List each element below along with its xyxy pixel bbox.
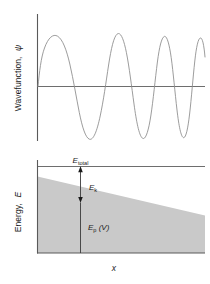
kinetic-energy-arrow: [78, 166, 83, 203]
svg-text:Energy, E: Energy, E: [13, 191, 23, 232]
total-energy-label-sub: total: [78, 160, 89, 166]
potential-energy-label-sub: p: [93, 227, 96, 233]
svg-text:Wavefunction, ψ: Wavefunction, ψ: [13, 45, 23, 112]
energy-panel: Etotal Ek Ep(V) Energy, E x: [13, 156, 205, 273]
potential-energy-label-paren: (V): [99, 223, 110, 232]
energy-y-axis-label: Energy, E: [13, 191, 23, 232]
kinetic-energy-label: Ek: [89, 183, 97, 193]
energy-label-text: Energy,: [13, 203, 23, 232]
potential-energy-label: Ep(V): [88, 223, 110, 233]
wavefunction-panel: Wavefunction, ψ: [13, 14, 205, 141]
wavefunction-y-axis-label: Wavefunction, ψ: [13, 45, 23, 112]
energy-x-axis-label: x: [111, 263, 117, 273]
kinetic-energy-label-sub: k: [94, 187, 97, 193]
total-energy-label: Etotal: [73, 156, 89, 166]
potential-energy-area: [38, 177, 206, 254]
energy-label-symbol: E: [13, 191, 23, 197]
wavefunction-label-text: Wavefunction,: [13, 56, 23, 111]
wavefunction-label-symbol: ψ: [13, 45, 23, 51]
physics-figure: Wavefunction, ψ Etotal Ek: [0, 0, 210, 284]
